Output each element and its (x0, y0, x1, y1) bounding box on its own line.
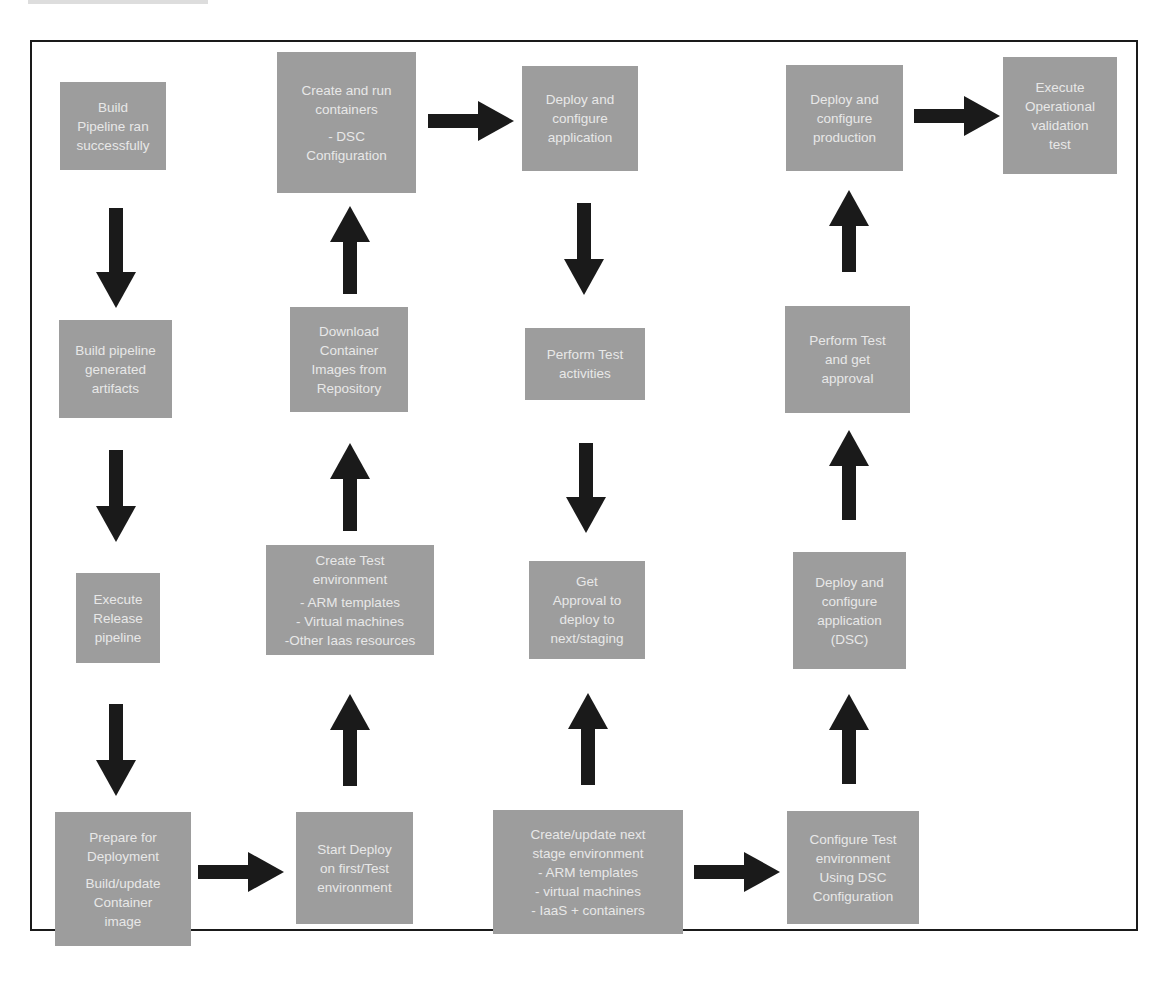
node-text: Prepare for (89, 828, 157, 847)
node-text: Perform Test (547, 345, 623, 364)
node-text: Release (93, 609, 143, 628)
node-text: deploy to (560, 610, 615, 629)
node-text: Configuration (306, 146, 386, 165)
node-text: Container (94, 893, 153, 912)
arrow-up-icon (330, 443, 370, 531)
node-build-pipeline-ran: Build Pipeline ran successfully (60, 82, 166, 170)
node-text: Deploy and (546, 90, 614, 109)
node-text: Get (576, 572, 598, 591)
node-text: production (813, 128, 876, 147)
node-create-run-containers: Create and run containers - DSC Configur… (277, 52, 416, 193)
node-text: Perform Test (809, 331, 885, 350)
node-create-test-environment: Create Test environment - ARM templates … (266, 545, 434, 655)
node-text: artifacts (92, 379, 139, 398)
node-perform-test-activities: Perform Test activities (525, 328, 645, 400)
node-text: on first/Test (320, 859, 389, 878)
node-text: (DSC) (831, 630, 869, 649)
node-text: - Virtual machines (296, 612, 404, 631)
node-text: Using DSC (820, 868, 887, 887)
node-deploy-configure-application-dsc: Deploy and configure application (DSC) (793, 552, 906, 669)
node-text: Create and run (301, 81, 391, 100)
node-create-update-next-stage: Create/update next stage environment - A… (493, 810, 683, 934)
cropped-caption-text (28, 0, 208, 4)
node-get-approval-staging: Get Approval to deploy to next/staging (529, 561, 645, 659)
arrow-right-icon (914, 96, 1000, 136)
node-text: Approval to (553, 591, 621, 610)
arrow-down-icon (566, 443, 606, 533)
node-text: Build pipeline (75, 341, 155, 360)
node-text: Start Deploy (317, 840, 391, 859)
arrow-down-icon (96, 704, 136, 796)
node-text: approval (822, 369, 874, 388)
arrow-up-icon (829, 430, 869, 520)
arrow-right-icon (428, 101, 514, 141)
node-text: configure (822, 592, 878, 611)
node-text: Create/update next (531, 825, 646, 844)
node-text: stage environment (532, 844, 643, 863)
arrow-up-icon (829, 694, 869, 784)
arrow-up-icon (568, 693, 608, 785)
node-text: configure (817, 109, 873, 128)
node-text: - IaaS + containers (531, 901, 645, 920)
node-text: Container (320, 341, 379, 360)
node-text: Operational (1025, 97, 1095, 116)
node-text: Deploy and (815, 573, 883, 592)
node-deploy-configure-application: Deploy and configure application (522, 66, 638, 171)
arrow-down-icon (564, 203, 604, 295)
node-text: Create Test (316, 551, 385, 570)
node-text: pipeline (95, 628, 142, 647)
node-execute-release-pipeline: Execute Release pipeline (76, 573, 160, 663)
node-perform-test-get-approval: Perform Test and get approval (785, 306, 910, 413)
node-text: Execute (1036, 78, 1085, 97)
node-text: containers (315, 100, 377, 119)
node-text: environment (317, 878, 391, 897)
node-text: Pipeline ran (77, 117, 148, 136)
node-text: Build/update (85, 874, 160, 893)
node-text: activities (559, 364, 611, 383)
arrow-up-icon (829, 190, 869, 272)
node-execute-operational-validation: Execute Operational validation test (1003, 57, 1117, 174)
node-text: Repository (317, 379, 382, 398)
node-text: - DSC (328, 127, 365, 146)
node-text: Build (98, 98, 128, 117)
node-text: generated (85, 360, 146, 379)
node-text: Configuration (813, 887, 893, 906)
arrow-right-icon (694, 852, 780, 892)
node-text: successfully (77, 136, 150, 155)
node-text: Deploy and (810, 90, 878, 109)
node-text: environment (816, 849, 890, 868)
node-text: validation (1031, 116, 1088, 135)
node-text: image (105, 912, 142, 931)
node-text: - ARM templates (538, 863, 638, 882)
node-text: configure (552, 109, 608, 128)
node-text: application (817, 611, 882, 630)
node-text: Download (319, 322, 379, 341)
node-text: test (1049, 135, 1071, 154)
node-text: next/staging (551, 629, 624, 648)
arrow-up-icon (330, 206, 370, 294)
node-prepare-for-deployment: Prepare for Deployment Build/update Cont… (55, 812, 191, 946)
arrow-down-icon (96, 450, 136, 542)
node-text: application (548, 128, 613, 147)
node-text: -Other Iaas resources (285, 631, 416, 650)
node-text: environment (313, 570, 387, 589)
node-text: - ARM templates (300, 593, 400, 612)
node-text: Images from (311, 360, 386, 379)
node-text: Execute (94, 590, 143, 609)
node-download-container-images: Download Container Images from Repositor… (290, 307, 408, 412)
node-configure-test-environment-dsc: Configure Test environment Using DSC Con… (787, 811, 919, 924)
arrow-up-icon (330, 694, 370, 786)
arrow-down-icon (96, 208, 136, 308)
node-build-pipeline-artifacts: Build pipeline generated artifacts (59, 320, 172, 418)
node-text: and get (825, 350, 870, 369)
node-text: Deployment (87, 847, 159, 866)
node-start-deploy-first-test: Start Deploy on first/Test environment (296, 812, 413, 924)
node-text: Configure Test (810, 830, 897, 849)
node-deploy-configure-production: Deploy and configure production (786, 65, 903, 171)
arrow-right-icon (198, 852, 284, 892)
node-text: - virtual machines (535, 882, 641, 901)
